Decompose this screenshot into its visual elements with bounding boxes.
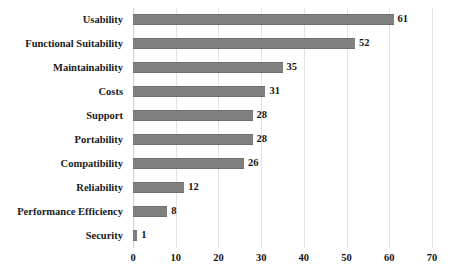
category-label: Functional Suitability	[25, 32, 123, 56]
tick-label: 10	[170, 250, 181, 266]
category-label: Performance Efficiency	[17, 200, 123, 224]
bar-value-label: 52	[359, 35, 370, 51]
category-label: Usability	[83, 8, 123, 32]
tick-label: 30	[256, 250, 267, 266]
category-label: Reliability	[76, 176, 123, 200]
bar-row: 1	[133, 224, 432, 248]
bar-row: 52	[133, 32, 432, 56]
bar	[133, 134, 253, 145]
bar	[133, 38, 355, 49]
value-axis-tick-labels: 010203040506070	[133, 250, 432, 270]
bar-value-label: 35	[287, 59, 298, 75]
tick-label: 20	[213, 250, 224, 266]
category-label: Maintainability	[53, 56, 123, 80]
bar	[133, 158, 244, 169]
tick-label: 70	[427, 250, 438, 266]
category-label: Compatibility	[61, 152, 123, 176]
bar-row: 26	[133, 152, 432, 176]
tick-label: 0	[130, 250, 135, 266]
bar-row: 35	[133, 56, 432, 80]
plot-area: 615235312828261281	[133, 8, 432, 248]
tick-label: 60	[384, 250, 395, 266]
tick-label: 50	[341, 250, 352, 266]
bar	[133, 206, 167, 217]
bar	[133, 62, 283, 73]
bar-value-label: 31	[269, 83, 280, 99]
gridline	[432, 8, 433, 248]
bar-value-label: 8	[171, 203, 176, 219]
bar-value-label: 28	[257, 107, 268, 123]
bar-value-label: 1	[141, 227, 146, 243]
bar-row: 28	[133, 128, 432, 152]
bar-chart: UsabilityFunctional SuitabilityMaintaina…	[0, 0, 458, 276]
bar-row: 8	[133, 200, 432, 224]
bar-value-label: 26	[248, 155, 259, 171]
bar-value-label: 12	[188, 179, 199, 195]
category-label: Support	[86, 104, 123, 128]
bar	[133, 110, 253, 121]
category-axis-labels: UsabilityFunctional SuitabilityMaintaina…	[0, 8, 128, 248]
tick-label: 40	[299, 250, 310, 266]
bar-row: 12	[133, 176, 432, 200]
bar-value-label: 28	[257, 131, 268, 147]
bar-row: 61	[133, 8, 432, 32]
category-label: Portability	[75, 128, 123, 152]
bar-row: 31	[133, 80, 432, 104]
bar-value-label: 61	[398, 11, 409, 27]
bar	[133, 14, 394, 25]
bar	[133, 86, 265, 97]
bar	[133, 182, 184, 193]
bar	[133, 230, 137, 241]
category-label: Costs	[98, 80, 123, 104]
bar-row: 28	[133, 104, 432, 128]
category-label: Security	[86, 224, 123, 248]
